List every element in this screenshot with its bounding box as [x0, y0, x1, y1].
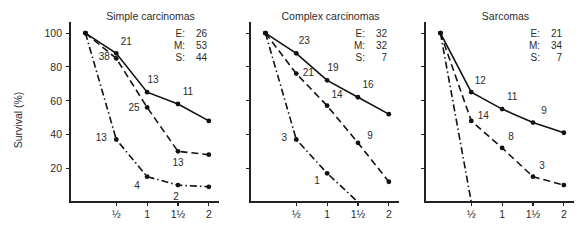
legend-key: M:: [174, 40, 185, 51]
data-point: [325, 171, 330, 176]
data-point: [83, 31, 88, 36]
legend-key: S:: [356, 52, 365, 63]
data-point: [386, 112, 391, 117]
data-point: [294, 137, 299, 142]
data-point: [206, 184, 211, 189]
data-point-label: 11: [507, 91, 518, 102]
legend-value: 7: [556, 52, 562, 63]
panel-title: Sarcomas: [482, 10, 529, 22]
x-tick-label: ½: [467, 208, 476, 220]
x-tick-label: 1½: [526, 208, 541, 220]
data-point-label: 9: [541, 105, 547, 116]
x-tick-label: 2: [386, 208, 392, 220]
legend-key: E:: [356, 28, 365, 39]
panel-title: Complex carcinomas: [281, 10, 379, 22]
data-point-label: 2: [173, 191, 179, 202]
data-point: [469, 90, 474, 95]
x-tick-label: 2: [561, 208, 567, 220]
data-point: [500, 107, 505, 112]
data-point: [294, 51, 299, 56]
data-point-label: 8: [508, 131, 514, 142]
data-point: [438, 31, 443, 36]
data-point: [114, 56, 119, 61]
data-point-label: 13: [96, 132, 108, 143]
data-point: [294, 71, 299, 76]
x-tick-label: 1: [324, 208, 330, 220]
x-tick-label: 1: [499, 208, 505, 220]
legend-value: 26: [196, 28, 208, 39]
data-point-label: 25: [129, 102, 141, 113]
data-point-label: 9: [367, 130, 373, 141]
data-point-label: 16: [362, 79, 374, 90]
data-point: [356, 140, 361, 145]
panel-title: Simple carcinomas: [106, 10, 195, 22]
legend-value: 21: [551, 28, 563, 39]
data-point: [325, 78, 330, 83]
data-point: [386, 179, 391, 184]
x-tick-label: ½: [112, 208, 121, 220]
x-tick-label: 1½: [171, 208, 186, 220]
legend-key: M:: [354, 40, 365, 51]
survival-chart-figure: Simple carcinomas20406080100½11½2E:26M:5…: [0, 0, 587, 238]
data-point-label: 21: [121, 36, 133, 47]
legend-key: E:: [176, 28, 185, 39]
data-point-label: 13: [172, 157, 184, 168]
data-point: [145, 174, 150, 179]
data-point-label: 38: [99, 51, 111, 62]
y-axis-title: Survival (%): [12, 92, 24, 149]
data-point-label: 1: [314, 175, 320, 186]
data-point: [176, 102, 181, 107]
legend-value: 7: [381, 52, 387, 63]
data-point: [356, 95, 361, 100]
legend-value: 34: [551, 40, 563, 51]
legend-value: 44: [196, 52, 208, 63]
chart-canvas: Simple carcinomas20406080100½11½2E:26M:5…: [0, 0, 587, 238]
data-point: [114, 51, 119, 56]
x-tick-label: 1½: [351, 208, 366, 220]
y-tick-label: 40: [50, 128, 62, 140]
data-point-label: 14: [332, 89, 344, 100]
data-point: [469, 119, 474, 124]
x-tick-label: 2: [206, 208, 212, 220]
legend-value: 32: [376, 28, 388, 39]
x-tick-label: 1: [144, 208, 150, 220]
data-point: [145, 105, 150, 110]
data-point-label: 4: [134, 180, 140, 191]
y-tick-label: 60: [50, 95, 62, 107]
data-point: [561, 130, 566, 135]
data-point: [206, 152, 211, 157]
data-point-label: 19: [328, 62, 340, 73]
data-point-label: 23: [299, 35, 311, 46]
data-point-label: 11: [183, 86, 194, 97]
legend-value: 32: [376, 40, 388, 51]
data-point: [176, 183, 181, 188]
data-point-label: 21: [303, 67, 315, 78]
y-tick-label: 20: [50, 162, 62, 174]
data-point: [531, 120, 536, 125]
data-point-label: 3: [539, 160, 545, 171]
data-point: [500, 146, 505, 151]
data-point: [145, 90, 150, 95]
data-point-label: 3: [281, 132, 287, 143]
data-point-label: 13: [148, 74, 160, 85]
data-point: [561, 183, 566, 188]
legend-key: S:: [176, 52, 185, 63]
data-point: [206, 119, 211, 124]
legend-key: M:: [529, 40, 540, 51]
data-point: [263, 31, 268, 36]
legend-key: E:: [531, 28, 540, 39]
y-tick-label: 100: [44, 27, 62, 39]
legend-key: S:: [531, 52, 540, 63]
data-point-label: 12: [475, 75, 487, 86]
data-point: [114, 137, 119, 142]
data-point: [325, 103, 330, 108]
data-point-label: 14: [478, 110, 490, 121]
data-point: [176, 149, 181, 154]
legend-value: 53: [196, 40, 208, 51]
x-tick-label: ½: [292, 208, 301, 220]
data-point: [531, 174, 536, 179]
y-tick-label: 80: [50, 61, 62, 73]
